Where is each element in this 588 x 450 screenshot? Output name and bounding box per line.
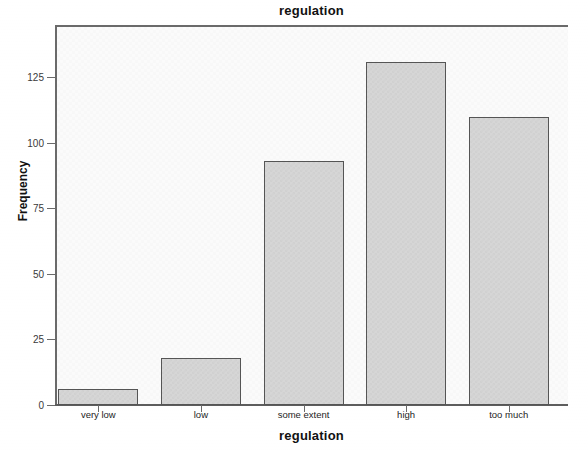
y-axis-tick-label: 75 bbox=[2, 203, 44, 214]
y-axis-tick-label: 25 bbox=[2, 334, 44, 345]
y-axis-tick-label: 50 bbox=[2, 268, 44, 279]
x-axis-tick-label: high bbox=[351, 409, 461, 420]
bar bbox=[58, 389, 138, 405]
bar bbox=[469, 117, 549, 405]
y-axis-tick bbox=[47, 143, 55, 144]
x-axis-title: regulation bbox=[55, 428, 568, 443]
x-axis-tick-label: low bbox=[146, 409, 256, 420]
y-axis-title: Frequency bbox=[16, 146, 30, 236]
bar bbox=[264, 161, 344, 405]
bar bbox=[161, 358, 241, 405]
y-axis-tick bbox=[47, 208, 55, 209]
y-axis-tick-label: 0 bbox=[2, 400, 44, 411]
x-axis-tick-label: very low bbox=[43, 409, 153, 420]
y-axis-tick bbox=[47, 339, 55, 340]
chart-title: regulation bbox=[55, 3, 568, 18]
y-axis-tick-label: 125 bbox=[2, 72, 44, 83]
y-axis-tick bbox=[47, 274, 55, 275]
bar-chart-figure: regulation Frequency 0255075100125 very … bbox=[0, 0, 588, 450]
bar bbox=[366, 62, 446, 405]
y-axis-tick bbox=[47, 77, 55, 78]
x-axis-tick-label: too much bbox=[454, 409, 564, 420]
x-axis-tick-label: some extent bbox=[249, 409, 359, 420]
y-axis-tick bbox=[47, 405, 55, 406]
y-axis-tick-label: 100 bbox=[2, 137, 44, 148]
